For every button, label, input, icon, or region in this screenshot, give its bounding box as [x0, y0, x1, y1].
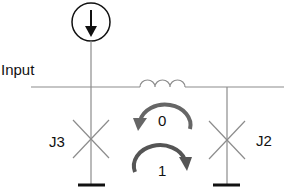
- j3-label: J3: [49, 133, 65, 150]
- j2-label: J2: [256, 132, 272, 149]
- loop-1-label: 1: [158, 162, 166, 179]
- circuit-diagram: Input J3 J2 0 1: [0, 0, 284, 192]
- loop-0-label: 0: [158, 112, 166, 129]
- current-source-icon: [72, 3, 110, 41]
- inductor-icon: [140, 80, 185, 87]
- input-label: Input: [1, 61, 35, 78]
